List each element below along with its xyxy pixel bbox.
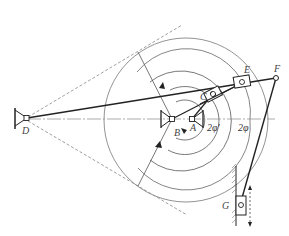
label-C: C (200, 91, 207, 102)
label-F: F (273, 63, 281, 74)
arrow-upper (159, 82, 165, 89)
slider-E (233, 75, 251, 88)
pin-F (274, 76, 279, 81)
label-A: A (189, 122, 197, 133)
arrow-lower (155, 141, 162, 148)
motion-arrow-G (248, 185, 252, 227)
label-E: E (243, 64, 250, 75)
arrow-A (181, 128, 187, 134)
radial-lower (138, 119, 172, 186)
label-angle-outer: 2φ (238, 122, 249, 133)
label-angle-inner: 2φ' (207, 122, 221, 133)
guide-G (232, 164, 236, 226)
label-G: G (222, 200, 229, 211)
mechanism-diagram: D B A C E F G 2φ' 2φ (0, 0, 289, 236)
large-circle (104, 38, 268, 202)
link-FG (240, 78, 276, 205)
tangent-upper (28, 25, 182, 117)
label-B: B (174, 127, 180, 138)
slider-G (236, 196, 246, 215)
label-D: D (21, 125, 30, 136)
radial-upper (138, 52, 172, 119)
